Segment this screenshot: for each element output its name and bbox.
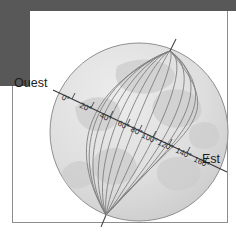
globe-illustration: 0° 20° 40° 60° 80° 100° 120° 140° 160° [13, 11, 236, 236]
page-margin-top [0, 0, 236, 11]
page-margin-left [0, 0, 30, 86]
label-east: Est [202, 152, 220, 166]
label-west: Ouest [14, 76, 47, 90]
figure-panel: 0° 20° 40° 60° 80° 100° 120° 140° 160° [12, 10, 228, 223]
figure-canvas: 0° 20° 40° 60° 80° 100° 120° 140° 160° O… [0, 0, 236, 236]
